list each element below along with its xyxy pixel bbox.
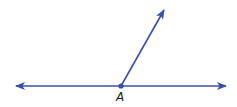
angle-diagram: A — [0, 0, 237, 107]
ray-up-right — [121, 10, 164, 86]
vertex-label: A — [115, 90, 124, 104]
vertex-point-a — [118, 83, 123, 88]
